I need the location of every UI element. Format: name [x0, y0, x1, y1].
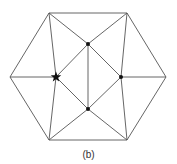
edge-tl-star [49, 13, 56, 77]
edge-bl-bot [49, 109, 88, 140]
nodes-group [51, 42, 123, 111]
figure-caption: (b) [0, 149, 177, 161]
edge-tr-r [127, 13, 166, 77]
node-dot-right [119, 75, 123, 79]
edge-tr-top [88, 13, 127, 44]
edge-br-right [121, 77, 127, 140]
edge-r-br [127, 77, 166, 140]
hexagon-triangulation-diagram [0, 0, 177, 164]
edge-star-bot [56, 77, 88, 109]
node-dot-top [86, 42, 90, 46]
edge-bot-right [88, 77, 121, 109]
edge-bl-l [10, 77, 49, 140]
edge-star-top [56, 44, 88, 77]
edge-bl-star [49, 77, 56, 140]
edge-tl-top [49, 13, 88, 44]
edge-br-bot [88, 109, 127, 140]
edges-group [10, 13, 166, 140]
edge-tr-right [121, 13, 127, 77]
edge-top-right [88, 44, 121, 77]
edge-l-tl [10, 13, 49, 77]
node-dot-bot [86, 107, 90, 111]
